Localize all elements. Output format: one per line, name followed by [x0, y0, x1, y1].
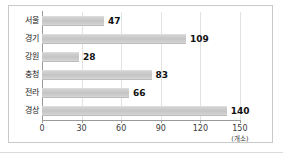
- unit-label: (개소): [231, 133, 248, 143]
- category-label-0: 서울: [25, 12, 39, 30]
- bar-value-gyeonggi: 109: [190, 32, 209, 46]
- bar-row: 66: [42, 84, 240, 102]
- plot-area: 47 109 28 83 66 140: [42, 12, 240, 120]
- bar-jeolla: [42, 88, 129, 98]
- bar-gyeongsang: [42, 106, 227, 116]
- bar-seoul: [42, 16, 104, 26]
- bar-value-gyeongsang: 140: [231, 104, 250, 118]
- bar-row: 140: [42, 102, 240, 120]
- category-label-5: 경상: [25, 102, 39, 120]
- category-label-3: 충청: [25, 66, 39, 84]
- category-label-4: 전라: [25, 84, 39, 102]
- bar-value-jeolla: 66: [133, 86, 146, 100]
- category-axis-labels: 서울 경기 강원 충청 전라 경상: [9, 12, 42, 120]
- bar-chungcheong: [42, 70, 152, 80]
- x-tick-label-60: 60: [116, 124, 126, 133]
- x-tick-mark-120: [200, 120, 201, 123]
- bar-gyeonggi: [42, 34, 186, 44]
- bar-row: 47: [42, 12, 240, 30]
- x-tick-mark-90: [161, 120, 162, 123]
- x-tick-mark-0: [42, 120, 43, 123]
- bar-value-chungcheong: 83: [156, 68, 169, 82]
- bar-row: 109: [42, 30, 240, 48]
- x-tick-label-90: 90: [156, 124, 166, 133]
- x-tick-label-150: 150: [232, 124, 247, 133]
- bar-value-seoul: 47: [108, 14, 121, 28]
- page-divider-rule: [0, 152, 283, 153]
- x-tick-label-120: 120: [193, 124, 208, 133]
- bar-row: 83: [42, 66, 240, 84]
- x-tick-mark-150: [240, 120, 241, 123]
- x-tick-label-30: 30: [77, 124, 87, 133]
- x-tick-mark-60: [121, 120, 122, 123]
- bar-row: 28: [42, 48, 240, 66]
- x-tick-mark-30: [82, 120, 83, 123]
- chart-figure: 서울 경기 강원 충청 전라 경상 47 109: [8, 5, 273, 143]
- plot-wrapper: 서울 경기 강원 충청 전라 경상 47 109: [9, 6, 272, 142]
- bar-value-gangwon: 28: [83, 50, 96, 64]
- bar-gangwon: [42, 52, 79, 62]
- category-label-2: 강원: [25, 48, 39, 66]
- x-axis-line: [42, 120, 241, 121]
- x-tick-label-0: 0: [39, 124, 44, 133]
- category-label-1: 경기: [25, 30, 39, 48]
